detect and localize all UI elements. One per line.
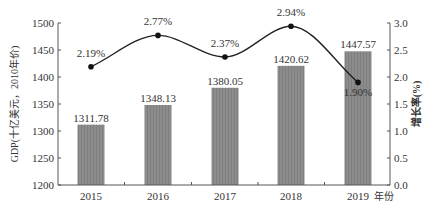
growth-rate-point xyxy=(88,64,94,70)
growth-rate-label: 1.90% xyxy=(344,86,372,98)
gdp-bar-label: 1311.78 xyxy=(73,112,109,124)
left-tick-label: 1250 xyxy=(32,152,55,164)
growth-rate-point xyxy=(222,54,228,60)
x-tick-label: 2017 xyxy=(214,190,237,202)
x-tick-label: 2016 xyxy=(147,190,170,202)
x-tick-label: 2015 xyxy=(80,190,103,202)
left-tick-label: 1350 xyxy=(32,98,55,110)
gdp-bar xyxy=(212,88,239,185)
right-tick-label: 2.0 xyxy=(394,71,408,83)
gdp-bar xyxy=(78,125,105,185)
growth-rate-point xyxy=(355,80,361,86)
right-tick-label: 2.5 xyxy=(394,44,408,56)
growth-rate-point xyxy=(288,23,294,29)
x-tick-label: 2018 xyxy=(280,190,303,202)
growth-rate-label: 2.94% xyxy=(277,6,305,18)
right-y-axis: 0.00.51.01.52.02.53.0 xyxy=(387,17,408,191)
left-tick-label: 1500 xyxy=(32,17,55,29)
x-tick-label: 2019 xyxy=(347,190,370,202)
growth-rate-label: 2.19% xyxy=(77,47,105,59)
left-tick-label: 1400 xyxy=(32,71,55,83)
right-tick-label: 0.0 xyxy=(394,179,408,191)
gdp-bar xyxy=(345,51,372,185)
right-tick-label: 1.5 xyxy=(394,98,408,110)
gdp-bar xyxy=(278,66,305,185)
gdp-bar xyxy=(145,105,172,185)
right-tick-label: 3.0 xyxy=(394,17,408,29)
left-tick-label: 1300 xyxy=(32,125,55,137)
gdp-bar-label: 1380.05 xyxy=(207,75,243,87)
x-axis: 20152016201720182019 xyxy=(58,182,390,202)
gdp-bars: 1311.781348.131380.051420.621447.57 xyxy=(73,38,376,185)
right-axis-title: 增长率(%) xyxy=(410,81,423,128)
gdp-bar-label: 1348.13 xyxy=(140,92,176,104)
right-tick-label: 0.5 xyxy=(394,152,408,164)
gdp-bar-label: 1447.57 xyxy=(340,38,376,50)
gdp-growth-chart: 1200125013001350140014501500 0.00.51.01.… xyxy=(0,0,441,212)
left-tick-label: 1450 xyxy=(32,44,55,56)
left-tick-label: 1200 xyxy=(32,179,55,191)
left-axis-title: GDP(十亿美元，2010年价) xyxy=(8,46,21,163)
growth-rate-label: 2.37% xyxy=(211,37,239,49)
left-y-axis: 1200125013001350140014501500 xyxy=(32,17,61,191)
gdp-bar-label: 1420.62 xyxy=(273,53,309,65)
growth-rate-label: 2.77% xyxy=(144,15,172,27)
x-axis-title: 年份 xyxy=(374,190,394,202)
growth-rate-point xyxy=(155,33,161,39)
right-tick-label: 1.0 xyxy=(394,125,408,137)
